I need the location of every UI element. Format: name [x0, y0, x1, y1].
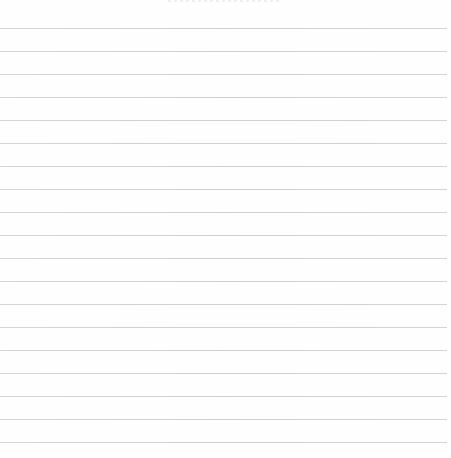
ruled-line: [0, 212, 447, 213]
ruled-line: [0, 327, 447, 328]
ruled-line: [0, 258, 447, 259]
ruled-line: [0, 235, 447, 236]
ruled-line: [0, 442, 447, 443]
ruled-line: [0, 350, 447, 351]
ruled-page: [0, 0, 451, 458]
ruled-line: [0, 120, 447, 121]
clipped-header-text: [168, 0, 280, 2]
ruled-line: [0, 74, 447, 75]
ruled-line: [0, 373, 447, 374]
ruled-line: [0, 143, 447, 144]
ruled-line: [0, 281, 447, 282]
ruled-line: [0, 304, 447, 305]
ruled-line: [0, 419, 447, 420]
ruled-line: [0, 396, 447, 397]
ruled-line: [0, 97, 447, 98]
ruled-line: [0, 166, 447, 167]
ruled-line: [0, 28, 447, 29]
ruled-line: [0, 51, 447, 52]
ruled-line: [0, 189, 447, 190]
